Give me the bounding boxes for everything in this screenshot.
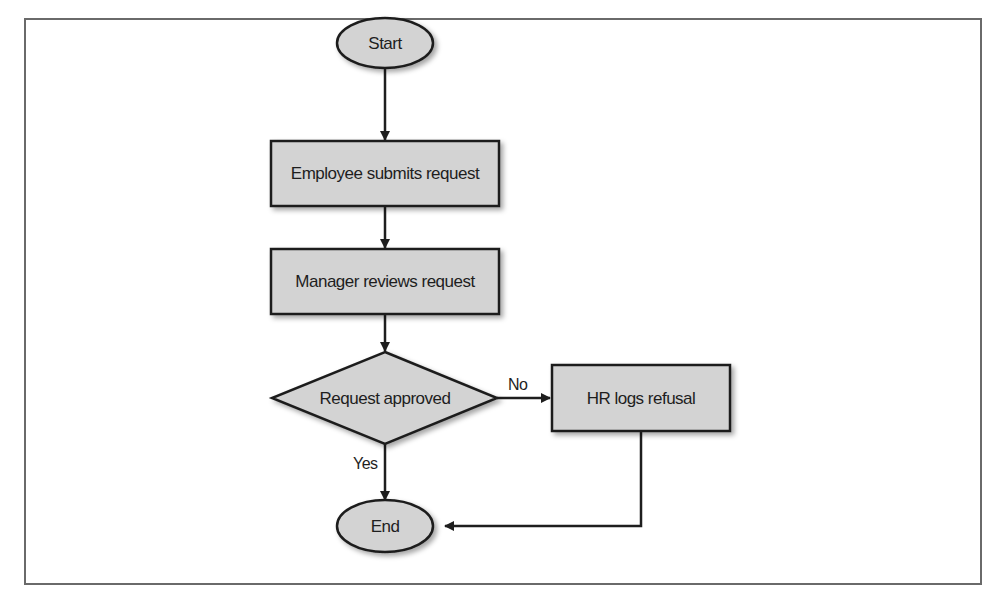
edge-label-yes: Yes [353,455,378,472]
node-decision: Request approved [272,352,497,444]
node-decision-label: Request approved [320,389,451,408]
node-review-label: Manager reviews request [295,272,475,291]
node-start-label: Start [368,34,402,53]
node-review: Manager reviews request [271,249,499,314]
node-end: End [337,500,433,552]
node-submit: Employee submits request [271,141,499,206]
node-start: Start [337,18,433,68]
node-submit-label: Employee submits request [291,164,480,183]
node-refusal: HR logs refusal [552,365,730,431]
node-end-label: End [371,517,400,536]
edge-refusal-to-end [445,431,641,526]
flowchart: No Yes Start Employee submits request Ma… [0,0,1000,600]
node-refusal-label: HR logs refusal [587,389,696,408]
edge-label-no: No [508,376,528,393]
